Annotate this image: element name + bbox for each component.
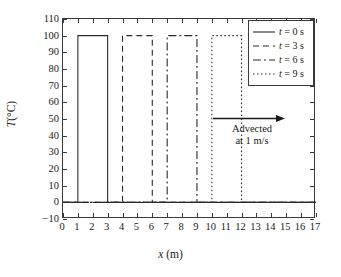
x-tick-label-2: 2	[89, 221, 94, 232]
x-tick-label-11: 11	[221, 221, 231, 232]
legend-swatch-3	[252, 69, 276, 79]
legend-swatch-0	[252, 27, 276, 37]
legend-item-0[interactable]: t = 0 s	[252, 25, 309, 39]
y-tick-label-60: 60	[49, 96, 60, 107]
y-tick-label-70: 70	[49, 79, 60, 90]
x-axis-symbol: x	[158, 248, 163, 260]
y-axis-title: T(°C)	[5, 79, 17, 149]
annotation-line-2: at 1 m/s	[213, 135, 291, 147]
y-tick-label-10: 10	[49, 179, 60, 190]
x-tick-label-13: 13	[250, 221, 261, 232]
x-axis-unit: (m)	[166, 248, 183, 260]
legend-item-2[interactable]: t = 6 s	[252, 53, 309, 67]
y-tick--10	[63, 219, 67, 220]
x-tick-label-3: 3	[104, 221, 109, 232]
x-tick-label-0: 0	[59, 221, 64, 232]
chart-figure: T(°C) −100102030405060708090100110 01234…	[0, 0, 341, 277]
y-tick-label-80: 80	[49, 63, 60, 74]
legend-label-0: t = 0 s	[279, 27, 304, 37]
y-axis-unit: (°C)	[5, 101, 17, 121]
legend-item-3[interactable]: t = 9 s	[252, 67, 309, 81]
x-tick-label-9: 9	[193, 221, 198, 232]
y-tick-label-100: 100	[43, 29, 59, 40]
y-tick-label-40: 40	[49, 129, 60, 140]
x-tick-label-4: 4	[119, 221, 124, 232]
legend-swatch-2	[252, 55, 276, 65]
y-tick-label--10: −10	[43, 213, 59, 224]
x-tick-label-6: 6	[149, 221, 154, 232]
x-tick-label-1: 1	[74, 221, 79, 232]
x-tick-label-14: 14	[265, 221, 276, 232]
y-tick-right--10	[310, 219, 314, 220]
x-tick-label-15: 15	[280, 221, 291, 232]
legend-label-2: t = 6 s	[279, 55, 304, 65]
y-tick-label-90: 90	[49, 46, 60, 57]
legend-item-1[interactable]: t = 3 s	[252, 39, 309, 53]
y-tick-label-50: 50	[49, 113, 60, 124]
y-axis-symbol: T	[5, 121, 17, 127]
arrow-right-icon	[213, 114, 285, 123]
y-tick-label-0: 0	[54, 196, 59, 207]
legend-symbol-0: t	[279, 26, 282, 37]
legend-label-1: t = 3 s	[279, 41, 304, 51]
x-tick-top-17	[316, 19, 317, 23]
advection-annotation: Advected at 1 m/s	[213, 114, 291, 146]
x-axis-title: x (m)	[0, 248, 341, 260]
x-tick-label-17: 17	[310, 221, 321, 232]
x-tick-label-7: 7	[164, 221, 169, 232]
x-tick-label-8: 8	[178, 221, 183, 232]
legend: t = 0 st = 3 st = 6 st = 9 s	[248, 20, 314, 86]
legend-symbol-1: t	[279, 40, 282, 51]
plot-area: Advected at 1 m/s t = 0 st = 3 st = 6 st…	[62, 18, 315, 218]
y-tick-label-20: 20	[49, 163, 60, 174]
x-tick-label-5: 5	[134, 221, 139, 232]
x-tick-label-16: 16	[295, 221, 306, 232]
y-tick-label-30: 30	[49, 146, 60, 157]
x-tick-label-10: 10	[206, 221, 217, 232]
legend-label-3: t = 9 s	[279, 69, 304, 79]
legend-swatch-1	[252, 41, 276, 51]
legend-symbol-2: t	[279, 54, 282, 65]
annotation-line-1: Advected	[213, 123, 291, 135]
legend-symbol-3: t	[279, 68, 282, 79]
x-tick-label-12: 12	[235, 221, 246, 232]
x-tick-17	[316, 213, 317, 217]
y-tick-label-110: 110	[44, 13, 59, 24]
